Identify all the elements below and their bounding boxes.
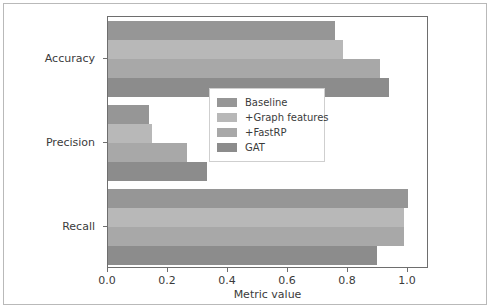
x-axis-tick-mark	[287, 268, 288, 272]
legend-item: +Graph features	[217, 110, 317, 125]
legend-swatch-icon	[217, 143, 237, 152]
legend-swatch-icon	[217, 113, 237, 122]
x-axis-tick-mark	[227, 268, 228, 272]
bar	[108, 189, 408, 208]
x-axis-tick-mark	[407, 268, 408, 272]
chart-figure: AccuracyPrecisionRecall 0.00.20.40.60.81…	[0, 0, 490, 308]
bar	[108, 105, 149, 124]
legend-item: +FastRP	[217, 125, 317, 140]
bar	[108, 208, 404, 227]
y-axis-ticks	[0, 16, 107, 268]
x-axis-tick-mark	[347, 268, 348, 272]
bar	[108, 40, 343, 59]
bar	[108, 162, 207, 181]
bar	[108, 143, 187, 162]
x-axis-title: Metric value	[107, 288, 428, 301]
legend-item: GAT	[217, 140, 317, 155]
bar	[108, 21, 335, 40]
legend-item-label: +FastRP	[245, 128, 286, 138]
x-axis-tick-label: 0.4	[218, 274, 236, 287]
legend-item-label: GAT	[245, 143, 265, 153]
bar	[108, 59, 380, 78]
chart-legend: Baseline+Graph features+FastRPGAT	[209, 88, 325, 162]
bar	[108, 227, 404, 246]
legend-item: Baseline	[217, 95, 317, 110]
x-axis-tick-label: 0.0	[98, 274, 116, 287]
x-axis-tick-label: 0.8	[338, 274, 356, 287]
bar	[108, 124, 152, 143]
legend-item-label: +Graph features	[245, 113, 329, 123]
x-axis-tick-mark	[167, 268, 168, 272]
x-axis-tick-mark	[107, 268, 108, 272]
x-axis-tick-label: 1.0	[398, 274, 416, 287]
x-axis-tick-label: 0.2	[158, 274, 176, 287]
legend-item-label: Baseline	[245, 98, 287, 108]
legend-swatch-icon	[217, 98, 237, 107]
x-axis-tick-label: 0.6	[278, 274, 296, 287]
bar	[108, 246, 377, 265]
legend-swatch-icon	[217, 128, 237, 137]
